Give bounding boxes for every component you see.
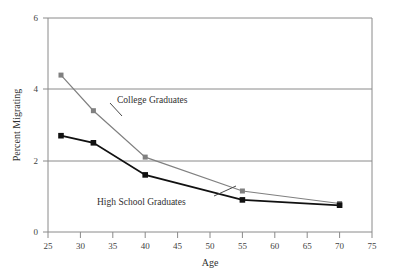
series-line	[61, 136, 340, 206]
x-tick-label: 65	[303, 241, 313, 251]
data-point-marker	[240, 189, 245, 194]
x-tick-label: 55	[238, 241, 248, 251]
x-tick-label: 60	[270, 241, 280, 251]
x-tick-labels: 25 30 35 40 45 50 55 60 65 70 75	[44, 241, 378, 251]
y-tick-label: 6	[34, 13, 39, 23]
series-layer	[58, 73, 342, 208]
gridlines	[48, 18, 372, 161]
x-tick-label: 25	[44, 241, 54, 251]
data-point-marker	[91, 140, 97, 146]
annotation-college-graduates: College Graduates	[117, 95, 188, 105]
y-tick-label: 4	[34, 84, 39, 94]
chart-figure: 6 4 2 0 25 30 35 40 45 50 55	[0, 0, 395, 280]
annotation-high-school-graduates: High School Graduates	[97, 197, 186, 207]
series-line	[61, 75, 340, 203]
x-tick-label: 45	[173, 241, 183, 251]
y-tick-label: 2	[34, 156, 39, 166]
y-tick-label: 0	[34, 227, 39, 237]
x-axis-title: Age	[202, 257, 219, 268]
series-college-graduates	[59, 73, 343, 206]
x-axis-ticks	[48, 232, 372, 238]
data-point-marker	[58, 133, 64, 139]
x-tick-label: 70	[335, 241, 345, 251]
x-tick-label: 30	[76, 241, 86, 251]
line-chart: 6 4 2 0 25 30 35 40 45 50 55	[0, 0, 395, 280]
data-point-marker	[142, 172, 148, 178]
data-point-marker	[337, 202, 343, 208]
data-point-marker	[59, 73, 64, 78]
x-tick-label: 35	[108, 241, 118, 251]
data-point-marker	[143, 155, 148, 160]
data-point-marker	[91, 108, 96, 113]
y-axis-title: Percent Migrating	[11, 89, 22, 161]
data-point-marker	[240, 197, 246, 203]
x-tick-label: 40	[141, 241, 151, 251]
x-tick-label: 75	[368, 241, 378, 251]
y-axis-ticks	[43, 18, 48, 232]
y-tick-labels: 6 4 2 0	[34, 13, 39, 237]
x-tick-label: 50	[206, 241, 216, 251]
